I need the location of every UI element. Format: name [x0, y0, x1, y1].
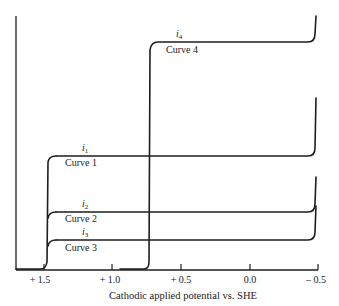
x-tick-label: 0.0: [244, 274, 257, 285]
curve-2: [56, 177, 316, 212]
curve-4: [120, 16, 316, 269]
x-tick-label: – 0.5: [305, 274, 326, 285]
x-tick-label: + 1.0: [100, 274, 121, 285]
current-label-i2: i2: [82, 198, 89, 211]
x-tick-label: + 0.5: [171, 274, 192, 285]
curve-3-branch: [48, 240, 56, 246]
chart: + 1.5 + 1.0 + 0.5 0.0 – 0.5 Cathodic app…: [0, 0, 339, 306]
curve-1: [56, 98, 316, 156]
x-tick-label: + 1.5: [30, 274, 51, 285]
curve-1-label: Curve 1: [65, 157, 97, 168]
curve-3-label: Curve 3: [65, 242, 97, 253]
curve-1-rise: [16, 156, 56, 269]
curve-2-branch: [48, 212, 56, 218]
curve-2-label: Curve 2: [65, 213, 97, 224]
curve-4-label: Curve 4: [166, 44, 198, 55]
current-label-i4: i4: [176, 28, 183, 41]
current-label-i3: i3: [82, 226, 89, 239]
x-axis-title: Cathodic applied potential vs. SHE: [109, 290, 257, 301]
current-label-i1: i1: [82, 142, 89, 155]
